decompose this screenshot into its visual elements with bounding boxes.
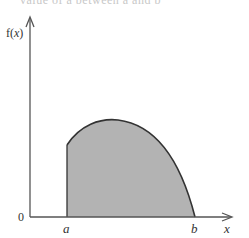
y-axis-label: f(x) — [6, 26, 23, 40]
area-under-curve-diagram: f(x) 0 a b x — [0, 0, 249, 238]
shaded-area — [67, 120, 195, 217]
origin-label: 0 — [18, 210, 24, 224]
b-label: b — [191, 221, 198, 236]
x-axis-label: x — [223, 221, 230, 236]
a-label: a — [63, 221, 70, 236]
